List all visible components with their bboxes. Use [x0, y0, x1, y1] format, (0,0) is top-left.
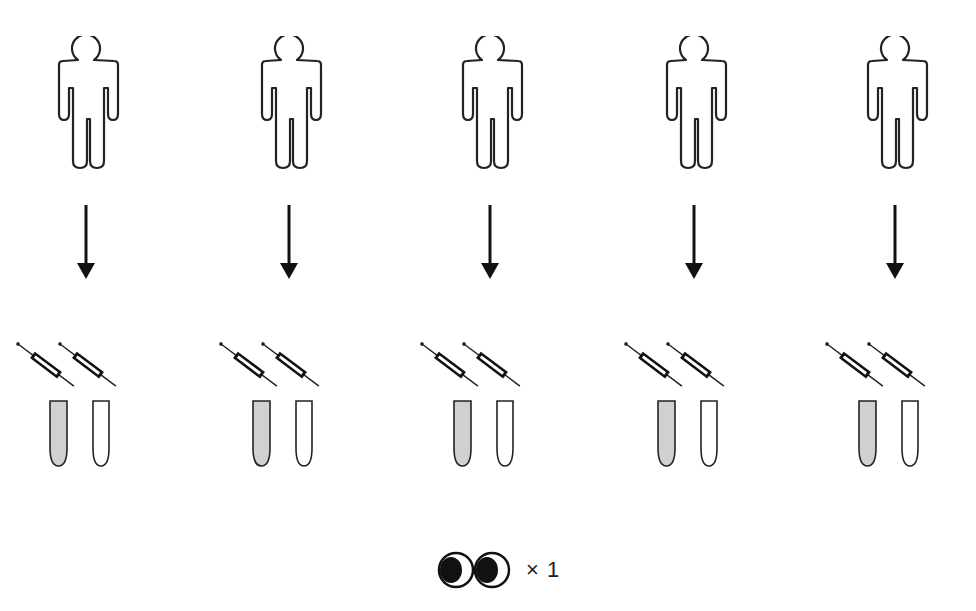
person-icon — [652, 36, 736, 176]
arrow-down-icon — [472, 205, 508, 285]
arrow-down-icon — [68, 205, 104, 285]
syringes-icon — [616, 340, 746, 400]
subject-column-4 — [608, 0, 768, 520]
person-icon — [247, 36, 331, 176]
subject-column-3 — [404, 0, 564, 520]
syringes-icon — [211, 340, 341, 400]
subject-column-1 — [0, 0, 160, 520]
legend: × 1 — [436, 548, 560, 592]
tube-empty — [902, 401, 918, 466]
tube-empty — [296, 401, 312, 466]
arrow-down-icon — [877, 205, 913, 285]
subject-column-5 — [809, 0, 969, 520]
arrow-down-icon — [271, 205, 307, 285]
tube-filled — [859, 401, 876, 466]
syringes-icon — [817, 340, 947, 400]
person-icon — [44, 36, 128, 176]
person-icon — [853, 36, 937, 176]
tube-empty — [497, 401, 513, 466]
person-icon — [448, 36, 532, 176]
tube-filled — [253, 401, 270, 466]
sample-tubes — [656, 400, 736, 470]
legend-label: × 1 — [526, 557, 560, 583]
arrow-down-icon — [676, 205, 712, 285]
syringes-icon — [8, 340, 138, 400]
subject-column-2 — [203, 0, 363, 520]
tube-empty — [701, 401, 717, 466]
sample-tubes — [857, 400, 937, 470]
syringes-icon — [412, 340, 542, 400]
tube-filled — [50, 401, 67, 466]
eyes-icon — [436, 548, 516, 592]
sample-tubes — [251, 400, 331, 470]
sample-tubes — [452, 400, 532, 470]
tube-filled — [658, 401, 675, 466]
tube-filled — [454, 401, 471, 466]
sample-tubes — [48, 400, 128, 470]
tube-empty — [93, 401, 109, 466]
